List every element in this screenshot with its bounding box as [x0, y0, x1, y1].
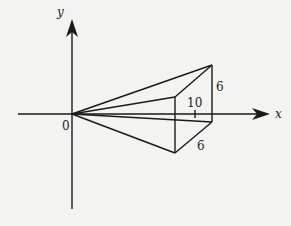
x-axis-label: x: [275, 108, 282, 120]
edge-apex-front-top: [72, 97, 175, 114]
width-label: 6: [197, 140, 205, 152]
base-bottom-edge: [175, 122, 212, 153]
edge-apex-front-bottom: [72, 114, 175, 153]
length-label: 10: [187, 97, 202, 109]
y-axis-label: y: [57, 6, 64, 18]
base-top-edge: [175, 65, 212, 97]
edge-apex-back-bottom: [72, 114, 212, 122]
diagram-canvas: [0, 0, 291, 226]
origin-label: 0: [62, 120, 70, 132]
height-label: 6: [216, 81, 224, 93]
